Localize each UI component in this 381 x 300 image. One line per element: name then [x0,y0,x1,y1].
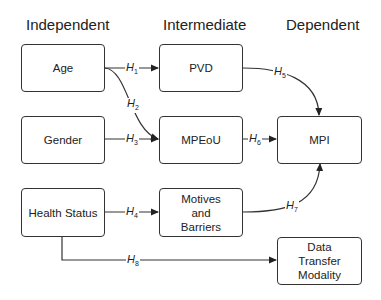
node-pvd: PVD [159,44,243,92]
node-age: Age [21,44,105,92]
label-h4: H4 [125,206,139,221]
node-motives-barriers-label: Motives and Barriers [172,192,230,234]
label-h5: H5 [273,66,287,81]
node-data-transfer-modality-label: Data Transfer Modality [286,240,353,282]
node-mpi-label: MPI [309,133,329,147]
node-data-transfer-modality: Data Transfer Modality [277,237,362,285]
label-h6: H6 [248,133,262,148]
label-h2: H2 [126,98,140,113]
node-motives-barriers: Motives and Barriers [159,188,243,237]
node-age-label: Age [53,61,73,75]
label-h7: H7 [285,200,299,215]
node-gender: Gender [21,116,105,164]
label-h1: H1 [125,62,139,77]
arrow-h8 [62,237,276,260]
node-mpi: MPI [277,116,362,164]
node-health-status: Health Status [21,188,105,237]
label-h8: H8 [126,254,140,269]
node-health-status-label: Health Status [28,206,97,220]
node-mpeou-label: MPEoU [181,133,221,147]
node-gender-label: Gender [44,133,82,147]
arrow-h7 [243,164,320,212]
node-mpeou: MPEoU [159,116,243,164]
node-pvd-label: PVD [189,61,213,75]
label-h3: H3 [125,133,139,148]
